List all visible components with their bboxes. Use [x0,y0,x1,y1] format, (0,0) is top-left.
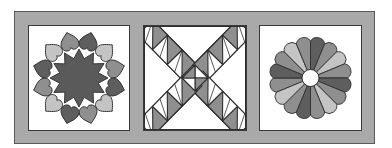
quilt-block-dresden-plate [259,25,362,131]
center-circle-icon [302,70,319,87]
heart-icon [39,92,64,117]
star-icon [50,49,108,107]
hearts-star-icon [29,26,129,130]
quilt-block-circle-of-hearts [28,25,130,131]
heart-icon [39,38,64,63]
heart-icon [93,92,118,117]
half-square-triangles-icon [144,26,246,130]
quilt-illustration [0,0,392,148]
quilt-block-triangle-x [143,25,247,131]
dresden-plate-icon [260,26,361,130]
heart-icon [93,38,118,63]
